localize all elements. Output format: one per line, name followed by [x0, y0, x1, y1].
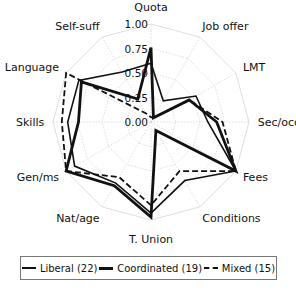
axis-label: T. Union	[128, 233, 173, 246]
grid-spoke	[151, 37, 200, 122]
legend: Liberal (22) Coordinated (19) Mixed (15)	[20, 256, 277, 280]
grid-spoke	[102, 122, 151, 207]
tick-label: 1.00	[125, 18, 148, 30]
legend-item-coordinated: Coordinated (19)	[99, 263, 202, 274]
axis-label: Gen/ms	[17, 171, 60, 184]
tick-label: 0.75	[125, 43, 148, 55]
axis-label: Self-suff	[55, 20, 100, 33]
solid-thin-line-icon	[22, 267, 36, 269]
axis-label: Fees	[243, 171, 268, 184]
axis-label: Job offer	[201, 20, 249, 33]
grid-spoke	[151, 122, 200, 207]
axis-label: LMT	[243, 61, 266, 74]
axis-label: Language	[5, 61, 60, 74]
legend-item-liberal: Liberal (22)	[22, 263, 98, 274]
tick-label: 0.00	[125, 116, 148, 128]
tick-label: 0.25	[125, 92, 148, 104]
axis-label: Quota	[134, 1, 167, 14]
axis-label: Conditions	[202, 212, 260, 225]
legend-item-mixed: Mixed (15)	[204, 263, 275, 274]
legend-label: Liberal (22)	[40, 263, 98, 274]
legend-label: Coordinated (19)	[117, 263, 202, 274]
radar-series	[62, 48, 236, 218]
axis-label: Sec/occ	[258, 116, 296, 129]
dashed-line-icon	[204, 267, 218, 269]
axis-label: Nat/age	[56, 212, 100, 225]
radar-chart: 0.000.250.500.751.00 QuotaJob offerLMTSe…	[0, 0, 296, 250]
grid-spoke	[151, 73, 236, 122]
tick-label: 0.50	[125, 67, 148, 79]
series-mixed	[62, 73, 236, 205]
axis-label: Skills	[16, 116, 45, 129]
grid-spoke	[66, 122, 151, 171]
solid-thick-line-icon	[99, 267, 113, 270]
legend-label: Mixed (15)	[222, 263, 275, 274]
